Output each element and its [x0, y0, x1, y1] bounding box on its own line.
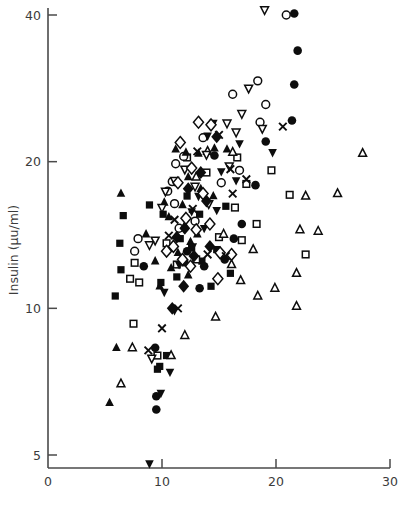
- y-axis-title: Insulin (μu/ml): [6, 205, 21, 295]
- x-tick-label-30: 30: [382, 474, 398, 489]
- data-point-filled-triangle-up: [142, 229, 151, 237]
- data-point-filled-circle: [293, 46, 302, 55]
- data-point-open-triangle-up: [128, 343, 136, 351]
- data-point-open-square: [268, 167, 275, 174]
- data-point-filled-circle: [210, 151, 219, 160]
- data-point-open-diamond: [181, 212, 191, 224]
- data-point-filled-triangle-down: [217, 168, 226, 176]
- data-point-filled-square: [160, 211, 167, 218]
- data-point-filled-square: [146, 201, 153, 208]
- data-point-filled-triangle-down: [160, 289, 169, 297]
- data-point-open-triangle-up: [334, 189, 342, 197]
- data-point-filled-diamond: [167, 302, 178, 315]
- data-point-open-circle: [254, 77, 262, 85]
- data-point-filled-circle: [195, 284, 204, 293]
- data-point-filled-square: [173, 273, 180, 280]
- data-point-filled-square: [154, 366, 161, 373]
- data-point-filled-circle: [238, 220, 247, 229]
- data-point-filled-circle: [261, 137, 270, 146]
- data-point-filled-triangle-down: [235, 140, 244, 148]
- scatter-plot-figure: 51020400102030 Insulin (μu/ml): [0, 0, 403, 508]
- data-point-open-triangle-up: [271, 284, 279, 292]
- data-point-filled-circle: [230, 234, 239, 243]
- y-tick-label-40: 40: [25, 8, 41, 23]
- axis-labels-group: Insulin (μu/ml): [6, 205, 21, 295]
- data-point-open-triangle-up: [181, 331, 189, 339]
- data-point-filled-circle: [290, 9, 299, 18]
- data-point-filled-circle: [200, 262, 209, 271]
- data-point-cross-x: [279, 123, 287, 131]
- data-point-open-triangle-down: [203, 151, 211, 159]
- data-point-open-circle: [172, 160, 180, 168]
- data-point-open-triangle-up: [229, 148, 237, 156]
- data-point-filled-square: [117, 266, 124, 273]
- x-tick-label-0: 0: [44, 474, 52, 489]
- data-point-open-square: [131, 260, 138, 267]
- data-point-filled-square: [222, 203, 229, 210]
- y-tick-label-5: 5: [33, 448, 41, 463]
- data-point-filled-triangle-down: [232, 177, 241, 185]
- data-points-group: [105, 7, 366, 469]
- data-point-open-triangle-up: [302, 191, 310, 199]
- data-point-open-circle: [217, 179, 225, 187]
- data-point-open-square: [286, 192, 293, 199]
- data-point-open-square: [232, 204, 239, 211]
- data-point-filled-square: [227, 270, 234, 277]
- data-point-open-triangle-down: [258, 125, 266, 133]
- data-point-filled-circle: [288, 116, 297, 125]
- data-point-cross-x: [158, 325, 166, 333]
- data-point-filled-circle: [152, 405, 161, 414]
- data-point-filled-triangle-up: [210, 143, 219, 151]
- data-point-open-triangle-down: [261, 7, 269, 15]
- data-point-open-square: [302, 251, 309, 258]
- data-point-open-triangle-up: [359, 149, 367, 157]
- data-point-open-square: [238, 237, 245, 244]
- data-point-cross-x: [165, 232, 173, 240]
- data-point-open-triangle-down: [146, 242, 154, 250]
- data-point-open-circle: [171, 200, 179, 208]
- data-point-open-circle: [282, 11, 290, 19]
- data-point-open-triangle-down: [232, 129, 240, 137]
- x-tick-label-10: 10: [154, 474, 170, 489]
- data-point-open-triangle-up: [212, 312, 220, 320]
- data-point-open-circle: [262, 101, 270, 109]
- data-point-open-triangle-down: [238, 111, 246, 119]
- data-point-filled-triangle-up: [117, 189, 126, 197]
- data-point-filled-circle: [139, 262, 148, 271]
- data-point-open-triangle-up: [237, 276, 245, 284]
- data-point-open-square: [253, 221, 260, 228]
- data-point-filled-square: [207, 283, 214, 290]
- data-point-open-triangle-up: [249, 245, 257, 253]
- data-point-open-square: [130, 320, 137, 327]
- data-point-open-triangle-up: [293, 269, 301, 277]
- data-point-open-circle: [191, 217, 199, 225]
- data-point-filled-triangle-up: [151, 256, 160, 264]
- data-point-cross-x: [204, 251, 212, 259]
- data-point-open-triangle-up: [254, 291, 262, 299]
- data-point-open-triangle-up: [220, 229, 228, 237]
- x-tick-label-20: 20: [268, 474, 284, 489]
- data-point-open-circle: [134, 235, 142, 243]
- data-point-open-circle: [236, 166, 244, 174]
- data-point-open-triangle-up: [293, 302, 301, 310]
- data-point-filled-triangle-up: [178, 200, 187, 208]
- data-point-open-square: [136, 279, 143, 286]
- data-point-open-triangle-down: [223, 120, 231, 128]
- data-point-filled-square: [112, 292, 119, 299]
- data-point-open-square: [127, 275, 134, 282]
- data-point-open-circle: [229, 90, 237, 98]
- data-point-open-triangle-down: [148, 355, 156, 363]
- data-point-cross-x: [229, 190, 237, 198]
- data-point-open-triangle-up: [117, 379, 125, 387]
- data-point-open-triangle-up: [296, 225, 304, 233]
- y-tick-label-10: 10: [25, 301, 41, 316]
- data-point-filled-triangle-up: [209, 191, 218, 199]
- y-tick-label-20: 20: [25, 154, 41, 169]
- data-point-cross-x: [145, 347, 153, 355]
- data-point-open-diamond: [193, 116, 203, 128]
- data-point-open-circle: [131, 247, 139, 255]
- data-point-filled-triangle-down: [166, 369, 175, 377]
- data-point-filled-triangle-down: [268, 149, 277, 157]
- data-point-filled-square: [196, 211, 203, 218]
- data-point-filled-square: [120, 212, 127, 219]
